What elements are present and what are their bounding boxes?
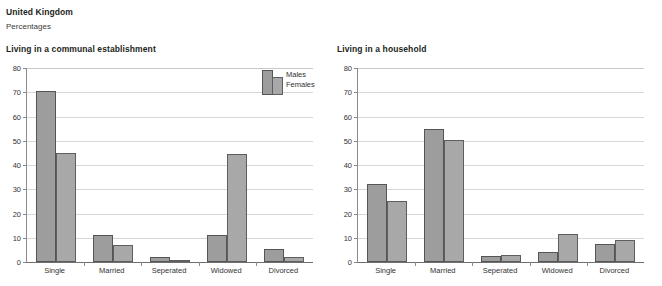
y-axis-tick-label: 60 (13, 112, 21, 121)
bar-widowed-females (558, 234, 578, 262)
legend-label-males: Males (286, 70, 306, 79)
bar-group (415, 68, 472, 262)
bar-pair (595, 240, 635, 262)
chart-title-household: Living in a household (337, 44, 426, 54)
bar-married-females (113, 245, 133, 262)
x-axis-labels-communal: SingleMarriedSeperatedWidowedDivorced (26, 266, 312, 275)
x-axis-label: Married (83, 266, 140, 275)
legend-label-females: Females (286, 80, 315, 89)
plot-area-communal: 01020304050607080 (26, 68, 313, 263)
y-axis-tick-label: 80 (13, 64, 21, 73)
bar-pair (93, 235, 133, 262)
bar-pair (481, 255, 521, 262)
x-axis-label: Seperated (140, 266, 197, 275)
x-axis-label: Single (26, 266, 83, 275)
y-axis-tick-label: 10 (13, 233, 21, 242)
bar-married-females (444, 140, 464, 262)
bar-group (141, 68, 198, 262)
header-block: United Kingdom Percentages (6, 6, 646, 33)
plot-area-household: 01020304050607080 (357, 68, 644, 263)
y-axis-tick-label: 80 (344, 64, 352, 73)
y-axis-tick-label: 30 (13, 185, 21, 194)
bar-group (199, 68, 256, 262)
bar-pair (424, 129, 464, 262)
y-axis-tick (354, 262, 358, 263)
bar-pair (150, 257, 190, 262)
y-axis-tick-label: 30 (344, 185, 352, 194)
chart-panel-household: 01020304050607080 SingleMarriedSeperated… (331, 62, 653, 282)
y-axis-tick-label: 40 (13, 161, 21, 170)
bar-single-males (36, 91, 56, 262)
x-axis-label: Divorced (586, 266, 643, 275)
bar-single-males (367, 184, 387, 262)
bar-widowed-males (538, 252, 558, 262)
x-axis-label: Seperated (471, 266, 528, 275)
bar-married-males (424, 129, 444, 262)
x-axis-label: Widowed (198, 266, 255, 275)
bar-married-males (93, 235, 113, 262)
y-axis-tick-label: 70 (13, 88, 21, 97)
bar-groups-communal (27, 68, 313, 262)
bar-groups-household (358, 68, 644, 262)
y-axis-tick-label: 20 (13, 209, 21, 218)
bar-single-females (56, 153, 76, 262)
y-axis-tick-label: 20 (344, 209, 352, 218)
y-axis-tick-label: 40 (344, 161, 352, 170)
bar-seperated-males (150, 257, 170, 262)
bar-group (587, 68, 644, 262)
bar-divorced-males (595, 244, 615, 262)
x-axis-label: Single (357, 266, 414, 275)
units-subtitle: Percentages (6, 21, 646, 33)
bar-pair (367, 184, 407, 262)
country-title: United Kingdom (6, 6, 646, 18)
y-axis-tick (23, 262, 27, 263)
bar-group (84, 68, 141, 262)
bar-single-females (387, 201, 407, 262)
chart-title-communal: Living in a communal establishment (6, 44, 156, 54)
bar-group (358, 68, 415, 262)
x-axis-label: Married (414, 266, 471, 275)
x-axis-labels-household: SingleMarriedSeperatedWidowedDivorced (357, 266, 643, 275)
bar-pair (264, 249, 304, 262)
bar-seperated-males (481, 256, 501, 262)
bar-pair (538, 234, 578, 262)
bar-pair (207, 154, 247, 262)
bar-group (472, 68, 529, 262)
bar-group (530, 68, 587, 262)
bar-widowed-females (227, 154, 247, 262)
bar-pair (36, 91, 76, 262)
bar-group (256, 68, 313, 262)
bar-seperated-females (501, 255, 521, 262)
y-axis-tick-label: 70 (344, 88, 352, 97)
y-axis-tick-label: 0 (17, 258, 21, 267)
legend-swatch-females-icon (272, 77, 283, 95)
bar-seperated-females (170, 260, 190, 262)
y-axis-tick-label: 50 (13, 136, 21, 145)
y-axis-tick-label: 60 (344, 112, 352, 121)
bar-divorced-females (615, 240, 635, 262)
bar-divorced-females (284, 257, 304, 262)
y-axis-tick-label: 50 (344, 136, 352, 145)
x-axis-label: Widowed (529, 266, 586, 275)
bar-group (27, 68, 84, 262)
bar-divorced-males (264, 249, 284, 262)
y-axis-tick-label: 0 (348, 258, 352, 267)
y-axis-tick-label: 10 (344, 233, 352, 242)
x-axis-label: Divorced (255, 266, 312, 275)
bar-widowed-males (207, 235, 227, 262)
chart-panel-communal: 01020304050607080 SingleMarriedSeperated… (0, 62, 322, 282)
